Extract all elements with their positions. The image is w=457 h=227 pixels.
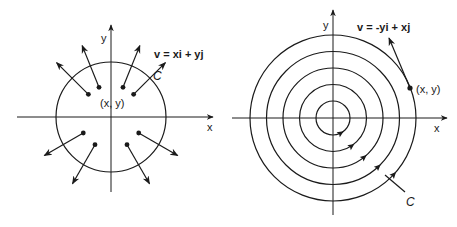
flow-arrowhead	[347, 144, 354, 150]
field-vector	[57, 63, 89, 95]
field-vector	[44, 133, 83, 156]
y-axis-label: y	[323, 19, 329, 31]
vector-label: v = -yi + xj	[357, 21, 410, 33]
x-axis-label: x	[207, 121, 213, 133]
curve-label: C	[153, 69, 162, 83]
radial-field-figure: x y (x, y) v = xi + yj C	[17, 25, 213, 192]
point-marker	[407, 85, 412, 90]
sample-point	[86, 92, 91, 97]
sample-point	[97, 85, 102, 90]
field-vector	[139, 133, 178, 156]
x-axis-label: x	[434, 122, 440, 134]
sample-point	[93, 142, 98, 147]
field-vector	[127, 145, 150, 184]
sample-point	[136, 131, 141, 136]
curve-c-leader	[385, 175, 405, 192]
flow-arrowhead	[360, 155, 367, 161]
sample-point	[131, 92, 136, 97]
field-vector	[123, 46, 140, 88]
sample-point	[121, 85, 126, 90]
point-label: (x, y)	[416, 83, 440, 95]
field-vector	[73, 145, 96, 184]
point-label: (x, y)	[100, 97, 124, 109]
flow-arrowheads	[337, 131, 396, 179]
sample-point	[125, 142, 130, 147]
field-vector	[82, 46, 99, 88]
y-axis-label: y	[101, 32, 107, 44]
tangent-vector	[389, 38, 410, 88]
vector-field-diagram: x y (x, y) v = xi + yj C x y (x, y) v = …	[0, 0, 457, 227]
curve-label: C	[406, 195, 415, 209]
rotational-field-figure: x y (x, y) v = -yi + xj C	[232, 10, 447, 215]
vector-label: v = xi + yj	[154, 48, 204, 60]
sample-point	[81, 131, 86, 136]
